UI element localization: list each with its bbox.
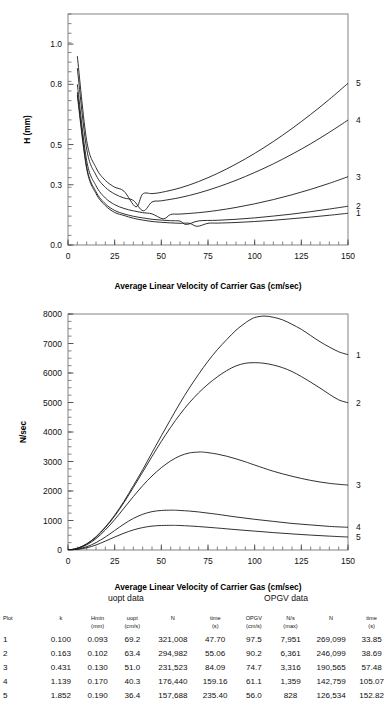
cell-nsmax: 7,951 (273, 633, 308, 647)
cell-uopt: 36.4 (115, 689, 150, 703)
curve-label-5: 5 (356, 78, 361, 88)
cell-uopt: 51.0 (115, 661, 150, 675)
cell-time2: 38.69 (354, 647, 389, 661)
cell-nsmax: 3,316 (273, 661, 308, 675)
x-axis-title: Average Linear Velocity of Carrier Gas (… (115, 582, 302, 592)
x-tick-label: 25 (110, 556, 120, 566)
col-header-nsmax: N/s(max) (273, 615, 308, 633)
data-table-section: uopt data OPGV data PlotkHmin(mm)uopt(cm… (0, 593, 389, 722)
cell-opgv: 90.2 (235, 647, 274, 661)
col-header-line2: (mm) (80, 623, 115, 631)
x-tick-label: 125 (294, 251, 308, 261)
curve-3 (68, 452, 348, 550)
curve-2 (77, 92, 348, 224)
cell-plot: 5 (0, 689, 42, 703)
van-deemter-svg: 02550751001251500.00.30.50.81.0H (mm)Ave… (0, 0, 389, 300)
cell-time2: 105.07 (354, 675, 389, 689)
curve-label-2: 2 (356, 398, 361, 408)
curve-label-2: 2 (356, 201, 361, 211)
col-header-line1: OPGV (246, 615, 262, 621)
cell-uopt: 63.4 (115, 647, 150, 661)
cell-nsmax: 6,361 (273, 647, 308, 661)
x-tick-label: 75 (203, 251, 213, 261)
x-tick-label: 50 (157, 251, 167, 261)
curve-1 (68, 316, 348, 550)
y-axis-title: H (mm) (22, 115, 32, 144)
x-tick-label: 0 (66, 251, 71, 261)
x-tick-label: 100 (248, 251, 262, 261)
curve-label-5: 5 (356, 532, 361, 542)
table-row: 30.4310.13051.0231,52384.0974.73,316190,… (0, 661, 389, 675)
col-header-line1: time (210, 615, 221, 621)
cell-opgv: 74.7 (235, 661, 274, 675)
cell-k: 0.100 (42, 633, 81, 647)
col-header-n2: N (308, 615, 354, 633)
cell-hmin: 0.130 (80, 661, 115, 675)
group-header-opgv: OPGV data (264, 593, 308, 603)
plot-frame (68, 14, 348, 245)
cell-time: 84.09 (196, 661, 235, 675)
table-body: 10.1000.09369.2321,00847.7097.57,951269,… (0, 633, 389, 702)
col-header-plot: Plot (0, 615, 42, 633)
col-header-n: N (150, 615, 196, 633)
cell-k: 1.139 (42, 675, 81, 689)
group-header-uopt: uopt data (108, 593, 144, 603)
cell-plot: 4 (0, 675, 42, 689)
curve-label-4: 4 (356, 522, 361, 532)
curve-label-4: 4 (356, 115, 361, 125)
col-header-line2: (cm/s) (235, 623, 274, 631)
cell-time: 47.70 (196, 633, 235, 647)
table-header-row: PlotkHmin(mm)uopt(cm/s)Ntime(s)OPGV(cm/s… (0, 615, 389, 633)
y-tick-label: 0 (57, 545, 62, 555)
x-tick-label: 150 (341, 251, 355, 261)
cell-hmin: 0.190 (80, 689, 115, 703)
cell-n2: 246,099 (308, 647, 354, 661)
col-header-line1: N (329, 615, 333, 621)
table-row: 10.1000.09369.2321,00847.7097.57,951269,… (0, 633, 389, 647)
cell-nsmax: 1,359 (273, 675, 308, 689)
cell-plot: 1 (0, 633, 42, 647)
cell-n: 231,523 (150, 661, 196, 675)
y-tick-label: 4000 (43, 427, 62, 437)
cell-opgv: 56.0 (235, 689, 274, 703)
y-tick-label: 1.0 (50, 39, 62, 49)
table-row: 51.8520.19036.4157,688235.4056.0828126,5… (0, 689, 389, 703)
cell-n2: 269,099 (308, 633, 354, 647)
x-tick-label: 0 (66, 556, 71, 566)
cell-uopt: 40.3 (115, 675, 150, 689)
x-tick-label: 100 (248, 556, 262, 566)
col-header-line1: N/s (286, 615, 294, 621)
col-header-hmin: Hmin(mm) (80, 615, 115, 633)
col-header-time: time(s) (196, 615, 235, 633)
cell-k: 0.163 (42, 647, 81, 661)
cell-n: 294,982 (150, 647, 196, 661)
cell-hmin: 0.102 (80, 647, 115, 661)
results-table: PlotkHmin(mm)uopt(cm/s)Ntime(s)OPGV(cm/s… (0, 615, 389, 703)
curve-4 (68, 510, 348, 550)
cell-hmin: 0.170 (80, 675, 115, 689)
y-tick-label: 2000 (43, 486, 62, 496)
cell-time2: 152.82 (354, 689, 389, 703)
col-header-uopt: uopt(cm/s) (115, 615, 150, 633)
cell-k: 1.852 (42, 689, 81, 703)
plot-frame (68, 314, 348, 550)
y-tick-label: 1000 (43, 516, 62, 526)
cell-hmin: 0.093 (80, 633, 115, 647)
col-header-line1: uopt (127, 615, 138, 621)
curve-3 (77, 84, 348, 219)
cell-time2: 33.85 (354, 633, 389, 647)
curve-label-3: 3 (356, 172, 361, 182)
cell-opgv: 61.1 (235, 675, 274, 689)
cell-time: 159.16 (196, 675, 235, 689)
y-tick-label: 0.8 (50, 79, 62, 89)
x-axis-title: Average Linear Velocity of Carrier Gas (… (115, 281, 302, 291)
y-tick-label: 5000 (43, 398, 62, 408)
cell-n2: 126,534 (308, 689, 354, 703)
col-header-line2: (s) (196, 623, 235, 631)
cell-time2: 57.48 (354, 661, 389, 675)
table-row: 20.1630.10263.4294,98255.0690.26,361246,… (0, 647, 389, 661)
table-row: 41.1390.17040.3176,440159.1661.11,359142… (0, 675, 389, 689)
cell-n2: 142,759 (308, 675, 354, 689)
van-deemter-chart: 02550751001251500.00.30.50.81.0H (mm)Ave… (0, 0, 389, 300)
cell-plot: 3 (0, 661, 42, 675)
